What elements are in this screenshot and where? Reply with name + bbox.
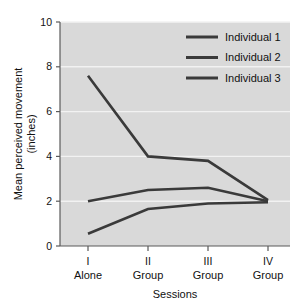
y-tick-label: 4 [46, 150, 52, 162]
x-tick-label-roman: III [204, 255, 213, 267]
x-tick-label-condition: Group [193, 269, 224, 281]
x-tick-label-roman: II [145, 255, 151, 267]
chart-container: 0246810 IAloneIIGroupIIIGroupIVGroup Ind… [0, 0, 305, 306]
x-tick-label-roman: IV [263, 255, 273, 267]
y-tick-label: 8 [46, 60, 52, 72]
y-tick-label: 2 [46, 195, 52, 207]
line-chart: 0246810 IAloneIIGroupIIIGroupIVGroup Ind… [0, 0, 305, 306]
legend-label-3: Individual 3 [225, 72, 281, 84]
x-tick-label-roman: I [87, 255, 90, 267]
x-tick-label-condition: Group [133, 269, 164, 281]
x-axis-title: Sessions [153, 288, 198, 300]
x-tick-label-condition: Group [253, 269, 284, 281]
y-tick-label: 6 [46, 105, 52, 117]
x-tick-label-condition: Alone [74, 269, 102, 281]
y-tick-label: 10 [40, 16, 52, 28]
y-tick-label: 0 [46, 240, 52, 252]
y-axis-title-line2: (inches) [25, 114, 37, 153]
legend-label-2: Individual 2 [225, 51, 281, 63]
legend-label-1: Individual 1 [225, 31, 281, 43]
y-axis-title-line1: Mean perceived movement [12, 68, 24, 201]
